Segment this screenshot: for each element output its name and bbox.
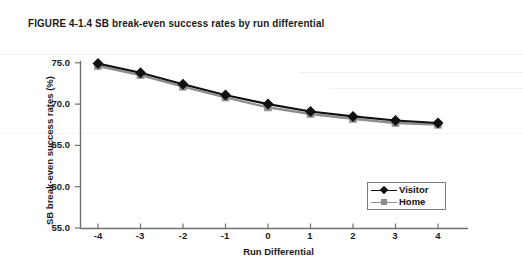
legend-swatch-visitor <box>371 185 397 195</box>
legend-label-visitor: Visitor <box>399 185 428 195</box>
chart-legend: Visitor Home <box>367 182 446 210</box>
chart-canvas <box>0 0 523 269</box>
series-markers-home <box>95 63 442 129</box>
series-markers-visitor <box>93 58 444 128</box>
x-axis-ticks <box>98 224 438 229</box>
chart-plot-area: SB break-even success rates (%) 75.0 70.… <box>0 0 523 269</box>
series-line-visitor <box>98 64 438 123</box>
legend-item-visitor: Visitor <box>371 184 428 196</box>
square-marker-icon <box>381 199 387 205</box>
figure-container: FIGURE 4-1.4 SB break-even success rates… <box>0 0 523 269</box>
y-axis-ticks <box>75 63 81 228</box>
legend-label-home: Home <box>399 197 425 207</box>
legend-swatch-home <box>371 197 397 207</box>
legend-item-home: Home <box>371 196 425 208</box>
diamond-marker-icon <box>380 186 388 194</box>
